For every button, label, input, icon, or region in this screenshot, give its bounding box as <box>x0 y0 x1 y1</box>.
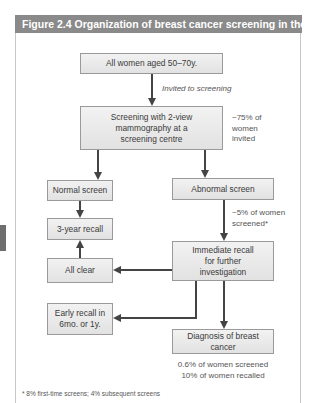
node-all-clear: All clear <box>47 258 113 283</box>
node-label: mammography at a <box>115 123 187 134</box>
note-line: 0.6% of women screened <box>172 360 274 371</box>
note-line: invited <box>232 134 262 145</box>
node-label: Screening with 2-view <box>111 112 192 123</box>
note-line: 10% of women recalled <box>172 371 274 382</box>
node-label: 6mo. or 1y. <box>59 319 100 330</box>
label-diagnosis-stats: 0.6% of women screened 10% of women reca… <box>172 360 274 381</box>
node-label: Normal screen <box>53 185 107 196</box>
label-invited: Invited to screening <box>162 84 231 95</box>
node-label: 3-year recall <box>57 224 103 235</box>
node-normal-screen: Normal screen <box>47 180 113 201</box>
node-early-recall: Early recall in 6mo. or 1y. <box>47 303 113 335</box>
node-diagnosis: Diagnosis of breast cancer <box>172 329 274 354</box>
node-label: Early recall in <box>55 308 105 319</box>
node-abnormal-screen: Abnormal screen <box>172 178 274 200</box>
note-line: ~5% of women <box>232 208 285 219</box>
node-label: Diagnosis of breast cancer <box>177 331 269 353</box>
label-pct75: ~75% of women invited <box>232 113 262 145</box>
node-label: All women aged 50–70y. <box>106 58 197 69</box>
note-line: women <box>232 124 262 135</box>
note-line: ~75% of <box>232 113 262 124</box>
node-3-year-recall: 3-year recall <box>47 218 113 240</box>
node-label: Immediate recall <box>192 245 253 256</box>
label-pct5: ~5% of women screened* <box>232 208 285 229</box>
node-label: investigation <box>200 267 247 278</box>
node-label: All clear <box>65 265 95 276</box>
node-all-women: All women aged 50–70y. <box>80 53 223 74</box>
node-label: Abnormal screen <box>191 184 254 195</box>
node-immediate-recall: Immediate recall for further investigati… <box>172 241 274 281</box>
node-label: screening centre <box>121 134 183 145</box>
node-label: for further <box>205 256 241 267</box>
node-screening: Screening with 2-view mammography at a s… <box>80 106 223 150</box>
footnote: * 8% first-time screens; 4% subsequent s… <box>22 390 160 397</box>
note-line: screened* <box>232 219 285 230</box>
